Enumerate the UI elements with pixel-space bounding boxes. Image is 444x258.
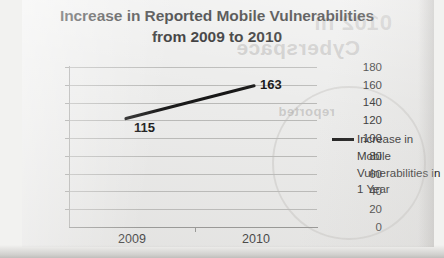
x-axis-label-2010: 2010	[216, 232, 296, 246]
data-label-2009: 115	[134, 120, 155, 135]
scanned-page: 0102 ni Cyberspace reported Increase in …	[0, 0, 444, 258]
chart-container: 0102 ni Cyberspace reported Increase in …	[22, 0, 434, 247]
legend-label: Increase in Mobile Vulnerabilities in 1 …	[357, 131, 443, 198]
data-label-2010: 163	[260, 77, 282, 92]
series-line-mobile-vulnerabilities	[126, 86, 254, 119]
series-line-layer	[22, 0, 444, 258]
x-axis-label-2009: 2009	[92, 232, 172, 246]
legend-marker-icon	[332, 138, 354, 141]
